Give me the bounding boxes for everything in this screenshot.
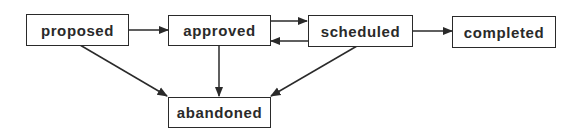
state-proposed: proposed (26, 14, 129, 46)
edge-proposed-abandoned (80, 45, 167, 96)
state-label: approved (183, 22, 255, 39)
state-abandoned: abandoned (168, 97, 271, 128)
state-label: completed (464, 24, 544, 41)
state-label: proposed (41, 22, 114, 39)
state-completed: completed (452, 16, 556, 48)
state-label: abandoned (177, 104, 262, 121)
edge-scheduled-abandoned (271, 46, 357, 96)
state-label: scheduled (321, 23, 401, 40)
state-approved: approved (168, 15, 271, 46)
state-scheduled: scheduled (308, 15, 413, 47)
